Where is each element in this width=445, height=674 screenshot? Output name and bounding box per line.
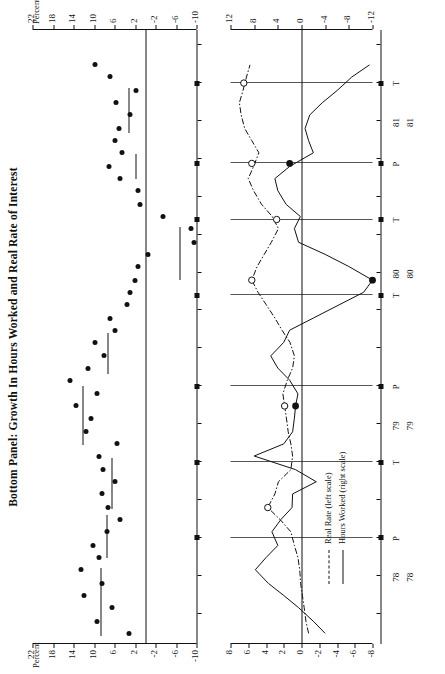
- real-rate-line: [239, 65, 308, 634]
- panel1-ytick: [155, 25, 156, 29]
- panel1-data-point: [119, 150, 124, 155]
- panel1-year-tick: [197, 575, 201, 576]
- panel1-year-tick: [197, 309, 201, 310]
- panel1-ytick: [94, 25, 95, 29]
- hours-worked-marker: [286, 160, 293, 167]
- panel1-data-point: [73, 403, 78, 408]
- panel1-data-point: [133, 88, 138, 93]
- panel1-data-point: [107, 316, 112, 321]
- panel1-data-point: [85, 366, 90, 371]
- panel1-data-point: [137, 202, 142, 207]
- panel1-ytick: [176, 644, 177, 648]
- real-rate-marker: [264, 504, 270, 510]
- panel1-cycle-marker-square: [194, 535, 199, 540]
- rotated-figure-stage: Bottom Panel: Growth In Hours Worked and…: [0, 0, 445, 674]
- panel1-data-point: [78, 567, 83, 572]
- panel1-ytick-label: 18: [46, 650, 56, 670]
- panel1-axis-name-left: Percent: [30, 643, 40, 669]
- panel1-data-point: [99, 581, 104, 586]
- panel1-average-segment: [100, 568, 101, 636]
- panel1-year-tick: [197, 613, 201, 614]
- panel1-ytick-label: 6: [107, 3, 117, 23]
- panel1-average-segment: [135, 154, 136, 178]
- panel1-year-tick: [197, 120, 201, 121]
- panel1-data-point: [96, 555, 101, 560]
- panel1-data-point: [96, 454, 101, 459]
- panel1-data-point: [191, 240, 196, 245]
- legend-label: Real Rate (left scale): [322, 472, 332, 544]
- panel1-bottom-axis: [196, 30, 197, 644]
- panel1-ytick: [155, 644, 156, 648]
- panel1-data-point: [145, 252, 150, 257]
- legend-solid-swatch: [342, 550, 343, 584]
- real-rate-marker: [248, 160, 254, 166]
- panel1-cycle-marker-square: [194, 81, 199, 86]
- panel1-data-point: [107, 75, 112, 80]
- panel1-data-point: [117, 176, 122, 181]
- panel1-cycle-marker-square: [194, 161, 199, 166]
- panel1-data-point: [88, 416, 93, 421]
- real-rate-marker: [281, 403, 287, 409]
- panel1-ytick: [196, 644, 197, 648]
- panel1-average-segment: [106, 515, 107, 557]
- panel1-data-point: [92, 62, 97, 67]
- panel1-data-point: [114, 441, 119, 446]
- panel1-ytick: [135, 644, 136, 648]
- panel1-data-point: [100, 467, 105, 472]
- panel1-ytick: [114, 644, 115, 648]
- panel1-year-tick: [197, 234, 201, 235]
- panel1-ytick: [196, 25, 197, 29]
- legend-item: Hours Worked (right scale): [336, 452, 350, 584]
- hours-worked-marker: [369, 277, 376, 284]
- panel1-ytick-label: 14: [66, 650, 76, 670]
- panel-scatter: 22221818141410106622-2-2-6-6-10-10Percen…: [20, 0, 216, 674]
- panel1-year-tick: [197, 499, 201, 500]
- panel1-data-point: [105, 505, 110, 510]
- panel1-data-point: [109, 605, 114, 610]
- panel-dual-axis-lines: 86420-2-4-6-812840-4-8-12PTPTTPT78798081…: [222, 0, 437, 674]
- hours-worked-line: [254, 65, 372, 634]
- figure-title: Bottom Panel: Growth In Hours Worked and…: [6, 0, 18, 674]
- panel1-year-tick: [197, 423, 201, 424]
- panel1-ytick-label: -6: [169, 3, 179, 23]
- panel1-data-point: [124, 302, 129, 307]
- panel1-data-point: [83, 429, 88, 434]
- panel1-average-segment: [111, 458, 112, 510]
- panel1-year-tick: [197, 44, 201, 45]
- panel1-average-segment: [128, 88, 129, 133]
- panel1-ytick: [53, 25, 54, 29]
- panel1-year-tick: [197, 158, 201, 159]
- panel1-ytick: [73, 644, 74, 648]
- panel1-data-point: [94, 391, 99, 396]
- panel1-ytick: [135, 25, 136, 29]
- panel1-data-point: [127, 112, 132, 117]
- panel1-ytick: [94, 644, 95, 648]
- panel1-axis-name-right: Percent: [30, 0, 40, 24]
- panel1-data-point: [126, 631, 131, 636]
- panel1-cycle-marker-square: [194, 460, 199, 465]
- panel1-data-point: [112, 138, 117, 143]
- panel1-year-tick: [197, 272, 201, 273]
- panel1-cycle-marker-square: [194, 384, 199, 389]
- panel1-ytick-label: 18: [46, 3, 56, 23]
- panel1-ytick: [176, 25, 177, 29]
- panel1-ytick: [53, 644, 54, 648]
- panel1-average-segment: [179, 227, 180, 280]
- panel1-data-point: [112, 328, 117, 333]
- real-rate-marker: [248, 277, 254, 283]
- panel1-ytick-label: -2: [148, 650, 158, 670]
- panel1-data-point: [81, 593, 86, 598]
- panel1-ytick-label: 2: [128, 3, 138, 23]
- panel1-ytick-label: 14: [66, 3, 76, 23]
- legend-item: Real Rate (left scale): [322, 452, 336, 584]
- panel1-ytick-label: -2: [148, 3, 158, 23]
- panel1-year-tick: [197, 196, 201, 197]
- panel1-data-point: [113, 100, 118, 105]
- panel1-ytick-label: 10: [87, 650, 97, 670]
- panel1-data-point: [106, 164, 111, 169]
- panel1-data-point: [94, 619, 99, 624]
- panel1-data-point: [116, 126, 121, 131]
- panel1-data-point: [67, 378, 72, 383]
- real-rate-marker: [240, 80, 246, 86]
- panel1-data-point: [127, 290, 132, 295]
